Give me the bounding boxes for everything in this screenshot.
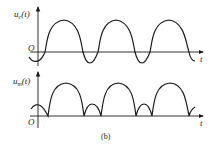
top-y-label: uc(t) — [14, 9, 30, 20]
bottom-waveform — [31, 83, 195, 116]
bottom-plot: um(t) O t — [13, 72, 203, 128]
top-plot: uc(t) O t — [14, 7, 203, 66]
figure-caption: (b) — [101, 132, 111, 141]
bottom-origin-label: O — [28, 117, 35, 127]
top-x-label: t — [200, 54, 203, 64]
waveform-figure: uc(t) O t um(t) O t (b) — [0, 0, 217, 151]
bottom-x-label: t — [200, 118, 203, 128]
top-origin-label: O — [28, 43, 35, 53]
bottom-y-label: um(t) — [13, 76, 30, 87]
top-waveform — [29, 20, 195, 63]
